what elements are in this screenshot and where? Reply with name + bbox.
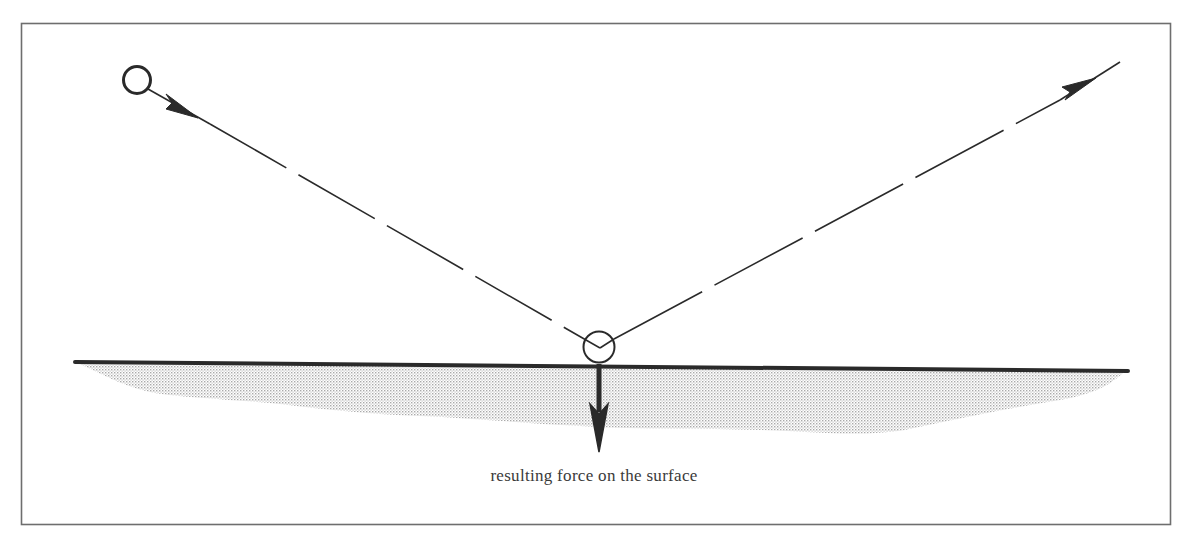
incoming-path-dashed: [210, 124, 586, 340]
outgoing-path-dashed: [614, 100, 1060, 339]
figure-frame: [22, 24, 1171, 525]
force-caption: resulting force on the surface: [0, 466, 1188, 486]
incoming-arrowhead-icon: [166, 94, 198, 118]
outgoing-arrowhead-icon: [1062, 78, 1096, 100]
incoming-ball-icon: [124, 67, 151, 94]
incoming-path-end: [586, 340, 600, 348]
